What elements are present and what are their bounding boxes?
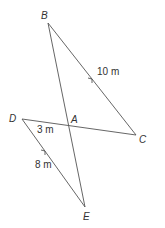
- label-e: E: [83, 211, 90, 222]
- label-d: D: [9, 113, 16, 124]
- segment-be: [48, 23, 85, 207]
- label-c: C: [139, 134, 147, 145]
- length-label-bc: 10 m: [97, 66, 119, 77]
- parallel-arrow-icon-de: [41, 150, 45, 155]
- geometry-diagram: B A C D E 10 m 3 m 8 m: [0, 0, 165, 228]
- length-label-de: 8 m: [35, 159, 52, 170]
- parallel-arrow-icon-bc: [88, 78, 92, 83]
- label-a: A: [70, 114, 78, 125]
- label-b: B: [41, 10, 48, 21]
- length-label-da: 3 m: [37, 124, 54, 135]
